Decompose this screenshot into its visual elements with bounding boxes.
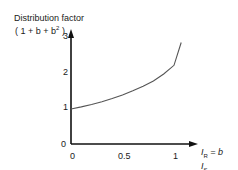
y-tick-3: 3 xyxy=(63,32,68,41)
x-axis-title: IR = b IS xyxy=(201,147,223,170)
y-axis-arrow-icon xyxy=(68,29,74,38)
curve-line xyxy=(71,43,181,110)
chart-plot xyxy=(0,0,238,170)
x-tick-1: 1 xyxy=(173,152,178,161)
y-tick-0: 0 xyxy=(61,140,66,149)
x-title-s: S xyxy=(204,167,208,170)
y-tick-1: 1 xyxy=(63,103,68,112)
x-tick-0-5: 0.5 xyxy=(118,152,131,161)
y-tick-2: 2 xyxy=(63,68,68,77)
x-title-eq: = b xyxy=(208,147,223,157)
x-axis-arrow-icon xyxy=(189,141,198,147)
x-tick-0: 0 xyxy=(70,152,75,161)
